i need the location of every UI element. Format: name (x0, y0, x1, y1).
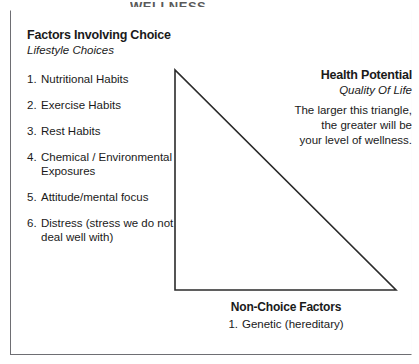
list-item: 1. Nutritional Habits (27, 72, 177, 86)
list-item-label: Exercise Habits (41, 98, 177, 112)
list-item-number: 1. (27, 72, 41, 86)
list-item: 5. Attitude/mental focus (27, 190, 177, 204)
health-potential-subtitle: Quality Of Life (282, 83, 412, 98)
list-item-number: 4. (27, 150, 41, 164)
list-item-label: Genetic (hereditary) (242, 318, 344, 330)
list-item: 4. Chemical / Environmental Exposures (27, 150, 177, 178)
list-item-number: 2. (27, 98, 41, 112)
list-item-label: Attitude/mental focus (41, 190, 177, 204)
list-item: 3. Rest Habits (27, 124, 177, 138)
choice-factors-list: 1. Nutritional Habits 2. Exercise Habits… (27, 72, 177, 244)
body-line: The larger this triangle, (282, 103, 412, 118)
list-item-label: Nutritional Habits (41, 72, 177, 86)
choice-factors-subtitle: Lifestyle Choices (27, 43, 177, 58)
body-line: your level of wellness. (282, 133, 412, 148)
list-item-label: Distress (stress we do not deal well wit… (41, 216, 177, 244)
non-choice-factors-title: Non-Choice Factors (175, 300, 397, 315)
page-header-cropped: WELLNESS (130, 0, 415, 7)
health-potential-title: Health Potential (282, 68, 412, 83)
list-item: 6. Distress (stress we do not deal well … (27, 216, 177, 244)
non-choice-factors-panel: Non-Choice Factors 1.Genetic (hereditary… (175, 300, 397, 331)
list-item-number: 5. (27, 190, 41, 204)
list-item-number: 1. (228, 318, 238, 330)
body-line: the greater will be (282, 118, 412, 133)
health-potential-panel: Health Potential Quality Of Life The lar… (282, 68, 412, 148)
choice-factors-panel: Factors Involving Choice Lifestyle Choic… (27, 28, 177, 256)
list-item: 2. Exercise Habits (27, 98, 177, 112)
non-choice-factors-list: 1.Genetic (hereditary) (175, 317, 397, 331)
list-item-number: 6. (27, 216, 41, 230)
list-item: 1.Genetic (hereditary) (175, 317, 397, 331)
list-item-label: Chemical / Environmental Exposures (41, 150, 177, 178)
choice-factors-title: Factors Involving Choice (27, 28, 177, 43)
list-item-label: Rest Habits (41, 124, 177, 138)
diagram-page: WELLNESS Factors Involving Choice Lifest… (0, 0, 419, 364)
health-potential-body: The larger this triangle, the greater wi… (282, 103, 412, 148)
list-item-number: 3. (27, 124, 41, 138)
